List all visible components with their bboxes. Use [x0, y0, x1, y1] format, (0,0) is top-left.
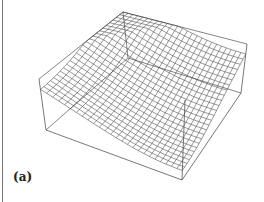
surface-plot [0, 0, 264, 202]
panel-label: (a) [13, 170, 32, 184]
